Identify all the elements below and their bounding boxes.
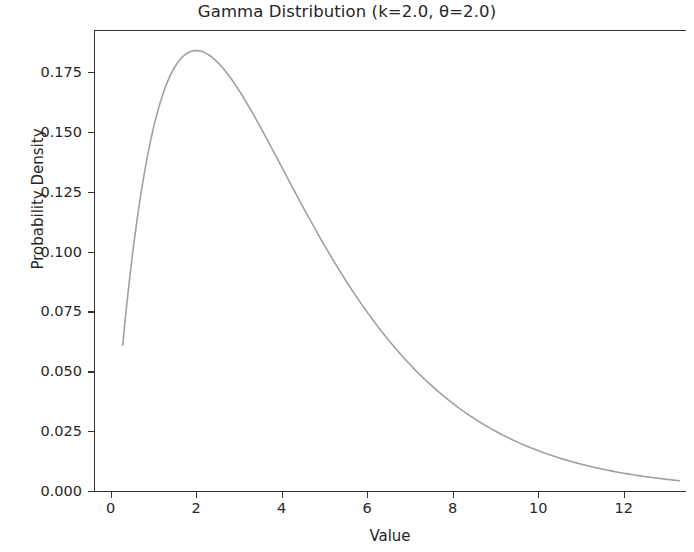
x-axis-label: Value [94, 527, 686, 545]
x-axis-tick-mark [367, 492, 368, 498]
x-axis-tick-label: 2 [192, 500, 201, 517]
y-axis-tick-label: 0.000 [40, 483, 82, 499]
x-axis-tick-label: 0 [106, 500, 115, 517]
axis-spine-left [94, 30, 95, 492]
y-axis-tick-mark [88, 192, 94, 193]
x-axis-tick-mark [624, 492, 625, 498]
x-axis-tick-mark [538, 492, 539, 498]
x-axis-tick-label: 10 [529, 500, 547, 517]
y-axis-tick-mark [88, 132, 94, 133]
y-axis-tick-mark [88, 371, 94, 372]
y-axis-tick-label: 0.025 [40, 423, 82, 439]
axis-spine-top [94, 30, 686, 31]
x-axis-tick-label: 4 [277, 500, 286, 517]
y-axis-tick-mark [88, 252, 94, 253]
x-axis-tick-label: 12 [614, 500, 632, 517]
y-axis-tick-mark [88, 72, 94, 73]
y-axis-tick-label: 0.050 [40, 363, 82, 379]
x-axis-tick-mark [453, 492, 454, 498]
x-axis-tick-label: 6 [363, 500, 372, 517]
chart-figure: Gamma Distribution (k=2.0, θ=2.0) 0.000 … [0, 0, 694, 552]
x-axis-tick-mark [282, 492, 283, 498]
y-axis-tick-mark [88, 431, 94, 432]
plot-area [94, 30, 686, 491]
y-axis-label: Probability Density [29, 69, 47, 329]
x-axis-tick-mark [196, 492, 197, 498]
x-axis-tick-mark [111, 492, 112, 498]
y-axis-tick-mark [88, 491, 94, 492]
x-axis-tick-label: 8 [448, 500, 457, 517]
y-axis-tick-mark [88, 311, 94, 312]
axis-spine-bottom [94, 491, 686, 492]
chart-title: Gamma Distribution (k=2.0, θ=2.0) [0, 1, 694, 23]
